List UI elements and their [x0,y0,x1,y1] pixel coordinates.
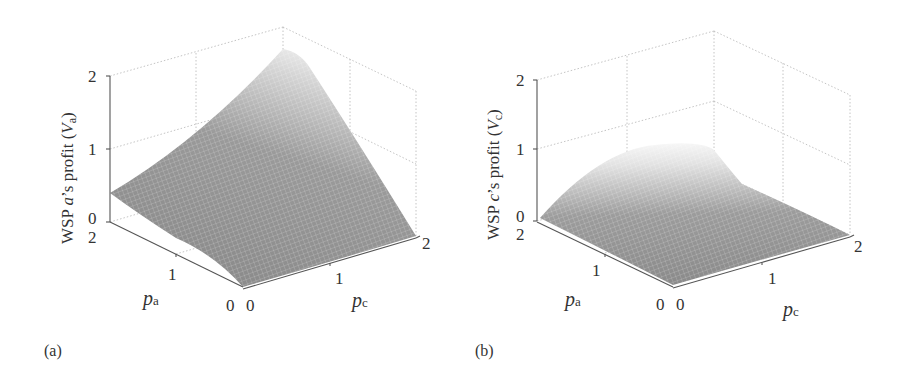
pa-axis-label: pa [141,287,159,310]
z-tick-1: 1 [516,140,525,159]
pa-tick-2: 2 [516,225,525,244]
pc-tick-0: 0 [676,295,685,314]
z-axis-label: WSP a’s profit (Va) [58,112,79,244]
panel-label-a: (a) [44,342,62,360]
pa-tick-1: 1 [592,261,601,280]
pa-tick-1: 1 [168,265,177,284]
z-tick-0: 0 [88,209,97,228]
z-tick-2: 2 [516,71,525,90]
pa-tick-2: 2 [88,228,97,247]
panel-a: 2 1 0 2 1 0 0 1 2 pa pc WSP a’s profit (… [58,27,431,315]
pa-tick-0: 0 [656,295,665,314]
pc-tick-2: 2 [422,234,431,253]
pc-axis-label: pc [350,289,368,312]
pa-axis-label: pa [563,288,581,311]
pc-tick-0: 0 [246,296,255,315]
pc-axis-label: pc [781,298,799,321]
figure: 2 1 0 2 1 0 0 1 2 pa pc WSP a’s profit (… [0,0,915,378]
pc-tick-1: 1 [768,269,777,288]
pa-tick-0: 0 [226,296,235,315]
pc-tick-1: 1 [335,269,344,288]
pc-tick-2: 2 [854,237,863,256]
z-tick-2: 2 [88,67,97,86]
panel-label-b: (b) [475,342,494,360]
panel-b: 2 1 0 2 1 0 0 1 2 pa pc WSP c’s profit (… [484,31,863,321]
z-tick-1: 1 [88,140,97,159]
z-tick-0: 0 [516,207,525,226]
z-axis-label: WSP c’s profit (Vc) [484,109,505,240]
